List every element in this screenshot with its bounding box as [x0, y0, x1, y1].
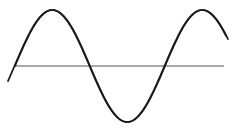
sine-wave-figure — [0, 0, 238, 131]
sine-wave-plot — [0, 0, 238, 131]
